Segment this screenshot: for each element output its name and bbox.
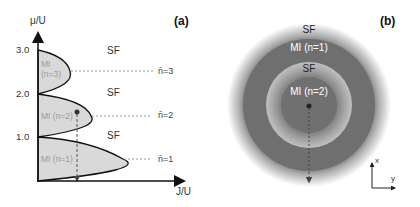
coord-y-label: y [391, 174, 395, 183]
y-tick-1: 1.0 [16, 131, 29, 142]
phase-diagram-plot [0, 0, 210, 207]
x-axis-label: J/U [176, 186, 191, 197]
sf-label-bottom: SF [107, 130, 120, 141]
panel-a-tag: (a) [174, 14, 189, 28]
mi-label-n3: MI (n=3) [41, 59, 61, 79]
mi-label-n1: MI (n=1) [41, 154, 73, 164]
phase-diagram-panel: (a) μ/U J/U 3.0 2.0 1.0 SF SF SF MI (n=3… [0, 0, 210, 207]
y-tick-2: 2.0 [16, 88, 29, 99]
coord-x-label: x [375, 156, 379, 165]
density-label-n3: n̄=3 [158, 66, 173, 76]
trap-center-dot [75, 110, 80, 115]
sf-label-top: SF [107, 45, 120, 56]
outer-sf-label: SF [303, 24, 316, 35]
y-tick-3: 3.0 [16, 44, 29, 55]
density-label-n1: n̄=1 [158, 154, 173, 164]
mi-label-n2: MI (n=2) [41, 111, 73, 121]
trap-center-dot [307, 104, 312, 109]
mi-n1-label: MI (n=1) [290, 42, 328, 53]
density-label-n2: n̄=2 [158, 110, 173, 120]
y-axis-label: μ/U [30, 15, 46, 26]
mi-n2-label: MI (n=2) [290, 86, 328, 97]
inner-sf-label: SF [303, 63, 316, 74]
trap-shell-panel: (b) SF MI (n=1) SF MI (n=2) x y [210, 0, 420, 207]
sf-label-middle: SF [107, 87, 120, 98]
panel-b-tag: (b) [380, 14, 395, 28]
